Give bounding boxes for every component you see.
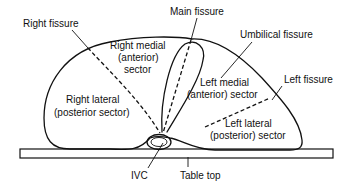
right-lateral-label-1: Right lateral: [66, 94, 119, 105]
umbilical-fissure-leader: [221, 42, 252, 78]
right-medial-label-2: (anterior): [118, 52, 159, 63]
ivc-inner: [151, 138, 167, 147]
table-top-label: Table top: [180, 170, 221, 181]
left-lateral-label-1: Left lateral: [225, 118, 272, 129]
right-medial-label-3: sector: [124, 64, 152, 75]
diagram-svg: Main fissure Right fissure Umbilical fis…: [0, 0, 352, 189]
left-medial-label-1: Left medial: [200, 77, 249, 88]
right-fissure-leader: [72, 30, 88, 48]
main-fissure-label: Main fissure: [170, 6, 224, 17]
ivc-label: IVC: [131, 170, 148, 181]
liver-sector-diagram: Main fissure Right fissure Umbilical fis…: [0, 0, 352, 189]
left-fissure-leader: [272, 86, 282, 100]
umbilical-fissure-label: Umbilical fissure: [240, 29, 313, 40]
right-medial-label-1: Right medial: [110, 40, 166, 51]
right-fissure-label: Right fissure: [23, 18, 79, 29]
right-lateral-label-2: (posterior sector): [54, 107, 130, 118]
main-fissure-leader: [191, 18, 197, 40]
left-fissure-label: Left fissure: [284, 74, 333, 85]
left-medial-label-2: (anterior) sector: [187, 89, 258, 100]
left-lateral-label-2: (posterior) sector: [210, 130, 286, 141]
